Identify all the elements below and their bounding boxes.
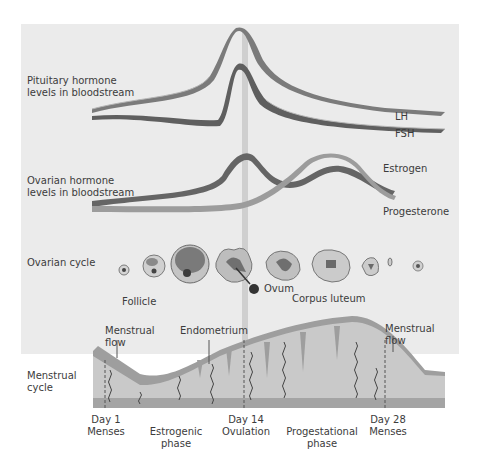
day1-sub-text: Menses (84, 426, 128, 438)
estrogen-label: Estrogen (383, 163, 427, 175)
day14-label: Day 14 Ovulation (218, 414, 274, 438)
fsh-label: FSH (395, 128, 414, 140)
day28-text: Day 28 (364, 414, 412, 426)
estrogenic-phase-label: Estrogenic phase (146, 426, 206, 450)
progesterone-label: Progesterone (383, 206, 449, 218)
pituitary-label-line1: Pituitary hormone (27, 75, 134, 87)
day14-text: Day 14 (218, 414, 274, 426)
day14-sub-text: Ovulation (218, 426, 274, 438)
endometrium-label: Endometrium (180, 325, 248, 337)
pituitary-label-line2: levels in bloodstream (27, 87, 134, 99)
ovarian-hormone-label-line1: Ovarian hormone (27, 175, 134, 187)
ovum-label: Ovum (264, 283, 294, 295)
ovarian-hormone-label-line2: levels in bloodstream (27, 187, 134, 199)
menstrual-flow-left-line1: Menstrual (105, 325, 155, 337)
day28-label: Day 28 Menses (364, 414, 412, 438)
progestational-text: Progestational (282, 426, 362, 438)
ovarian-hormone-row-label: Ovarian hormone levels in bloodstream (27, 175, 134, 199)
estrogenic-phase-text: phase (146, 438, 206, 450)
menstrual-flow-left-label: Menstrual flow (105, 325, 155, 349)
menstrual-label-line1: Menstrual (27, 370, 77, 382)
corpus-luteum-label: Corpus luteum (292, 293, 366, 305)
follicle-label: Follicle (122, 296, 156, 308)
progestational-phase-label: Progestational phase (282, 426, 362, 450)
ovarian-cycle-label: Ovarian cycle (27, 257, 95, 269)
menstrual-label-line2: cycle (27, 382, 77, 394)
day28-sub-text: Menses (364, 426, 412, 438)
day1-label: Day 1 Menses (84, 414, 128, 438)
menstrual-flow-left-line2: flow (105, 337, 155, 349)
estrogenic-text: Estrogenic (146, 426, 206, 438)
menstrual-flow-right-line1: Menstrual (385, 323, 435, 335)
menstrual-flow-right-line2: flow (385, 335, 435, 347)
pituitary-row-label: Pituitary hormone levels in bloodstream (27, 75, 134, 99)
day1-text: Day 1 (84, 414, 128, 426)
menstrual-cycle-row-label: Menstrual cycle (27, 370, 77, 394)
menstrual-flow-right-label: Menstrual flow (385, 323, 435, 347)
progestational-phase-text: phase (282, 438, 362, 450)
lh-label: LH (395, 111, 408, 123)
